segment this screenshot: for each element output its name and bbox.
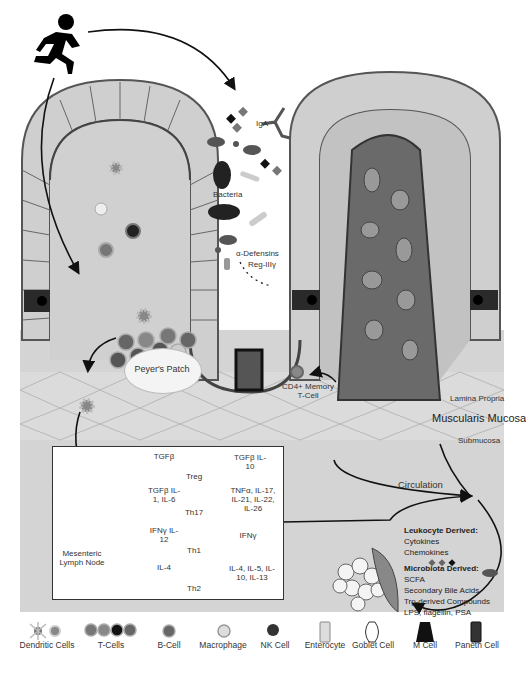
leukocyte-item: Cytokines	[404, 536, 490, 547]
legend-paneth-cell: Paneth Cell	[455, 640, 499, 650]
microbiota-item: SCFA	[404, 574, 490, 585]
treg-label: Treg	[186, 472, 202, 481]
cd4-memory-label: CD4+ Memory T-Cell	[278, 382, 338, 400]
legend-macrophage: Macrophage	[199, 640, 246, 650]
goblet-cell-icon	[366, 622, 379, 642]
microbiota-item: LPS, flagellin, PSA	[404, 607, 490, 618]
runner-icon	[34, 14, 80, 74]
circulation-label: Circulation	[398, 480, 443, 491]
legend-nk-cell: NK Cell	[261, 640, 290, 650]
th2-outputs: IL-4, IL-5, IL-10, IL-13	[229, 564, 275, 582]
cd4-memory-t-cell	[291, 366, 303, 378]
bacteria-label: Bacteria	[213, 190, 242, 199]
reg3-label: Reg-IIIγ	[248, 260, 276, 269]
m-cell	[236, 350, 262, 390]
th17-label: Th17	[185, 508, 203, 517]
m-cell-icon	[416, 622, 434, 642]
macrophage-icon	[218, 625, 230, 637]
microbiota-item: Secondary Bile Acids	[404, 585, 490, 596]
lamina-propria-label: Lamina Propria	[450, 394, 504, 403]
treg-inputs: TGFβ	[154, 452, 175, 461]
nk-cell-icon	[267, 624, 279, 636]
legend-goblet-cell: Goblet Cell	[352, 640, 394, 650]
th1-label: Th1	[187, 546, 201, 555]
peyers-patch-label: Peyer's Patch	[134, 364, 189, 374]
th1-inputs: IFNγ IL-12	[149, 526, 179, 544]
b-cell-icon	[163, 625, 175, 637]
th2-label: Th2	[187, 584, 201, 593]
th1-outputs: IFNγ	[240, 531, 257, 540]
legend-t-cells: T-Cells	[98, 640, 124, 650]
iga-label: IgA	[256, 119, 268, 128]
submucosa-label: Submucosa	[458, 436, 500, 445]
muscularis-mucosa-label: Muscularis Mucosa	[432, 412, 526, 425]
legend-enterocyte: Enterocyte	[305, 640, 346, 650]
bacterium	[213, 161, 231, 189]
legend-icons	[30, 622, 481, 642]
bacterium	[208, 204, 240, 220]
th2-inputs: IL-4	[157, 563, 171, 572]
mesenteric-lymph-node-label: Mesenteric Lymph Node	[51, 549, 113, 567]
th17-outputs: TNFα, IL-17, IL-21, IL-22, IL-26	[228, 486, 278, 514]
microbiota-item: Trp-derived Compounds	[404, 596, 490, 607]
dendritic-cell-icon	[30, 622, 60, 640]
legend-b-cell: B-Cell	[157, 640, 180, 650]
legend-m-cell: M Cell	[413, 640, 437, 650]
t-cell-icon	[85, 624, 136, 636]
derived-factors: Leukocyte Derived: Cytokines Chemokines …	[404, 525, 490, 618]
th17-inputs: TGFβ IL-1, IL-6	[146, 486, 182, 504]
leukocyte-title: Leukocyte Derived:	[404, 525, 490, 536]
leukocyte-item: Chemokines	[404, 547, 490, 558]
treg-outputs: TGFβ IL-10	[233, 453, 267, 471]
paneth-cell-icon	[471, 622, 481, 642]
alpha-defensins-label: α-Defensins	[236, 249, 279, 258]
enterocyte-icon	[320, 622, 330, 642]
microbiota-title: Microbiota Derived:	[404, 563, 490, 574]
legend-dendritic-cells: Dendritic Cells	[20, 640, 75, 650]
